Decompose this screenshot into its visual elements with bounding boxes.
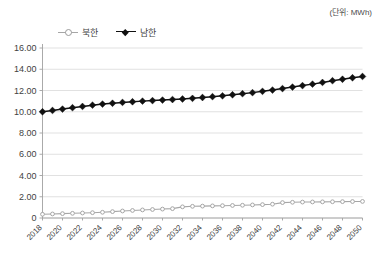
x-tick-label: 2046 [305, 223, 324, 242]
data-point [151, 208, 155, 212]
chart-container: (단위: MWh) 북한 남한 02.004.006.008.0010.0012… [0, 0, 378, 261]
x-tick-label: 2042 [265, 223, 284, 242]
data-point [121, 209, 125, 213]
data-point [131, 209, 135, 213]
data-point [129, 98, 136, 105]
data-point [329, 77, 336, 84]
x-tick-label: 2020 [45, 223, 64, 242]
y-axis-ticks: 02.004.006.008.0010.0012.0014.0016.00 [14, 43, 43, 223]
data-point [189, 95, 196, 102]
data-point [109, 100, 116, 107]
gridlines [43, 48, 363, 218]
data-point [359, 73, 366, 80]
data-point [261, 203, 265, 207]
plot-area: 02.004.006.008.0010.0012.0014.0016.00 20… [0, 0, 378, 261]
data-point [141, 208, 145, 212]
data-point [341, 200, 345, 204]
data-point [279, 85, 286, 92]
y-tick-label: 0 [31, 213, 36, 223]
data-point [201, 204, 205, 208]
data-point [231, 204, 235, 208]
data-point [339, 76, 346, 83]
data-point [291, 200, 295, 204]
data-point [229, 91, 236, 98]
data-point [319, 79, 326, 86]
data-point [239, 90, 246, 97]
y-tick-label: 8.00 [19, 128, 37, 138]
data-point [281, 201, 285, 205]
axis-lines [43, 44, 363, 218]
y-tick-label: 12.00 [14, 86, 37, 96]
data-point [251, 203, 255, 207]
data-point [219, 92, 226, 99]
data-point [49, 107, 56, 114]
x-tick-label: 2032 [165, 223, 184, 242]
data-point [79, 103, 86, 110]
data-point [199, 94, 206, 101]
y-tick-label: 4.00 [19, 171, 37, 181]
data-point [181, 205, 185, 209]
data-point [91, 211, 95, 215]
data-point [349, 74, 356, 81]
x-tick-label: 2018 [25, 223, 44, 242]
data-point [351, 200, 355, 204]
data-point [311, 200, 315, 204]
x-tick-label: 2038 [225, 223, 244, 242]
data-point [179, 96, 186, 103]
data-point [61, 212, 65, 216]
data-point [221, 204, 225, 208]
x-tick-label: 2050 [345, 223, 364, 242]
data-point [211, 204, 215, 208]
data-point [139, 98, 146, 105]
data-point [51, 212, 55, 216]
data-series [39, 73, 366, 216]
x-tick-label: 2028 [125, 223, 144, 242]
y-tick-label: 2.00 [19, 192, 37, 202]
data-point [299, 82, 306, 89]
x-tick-label: 2040 [245, 223, 264, 242]
x-tick-label: 2048 [325, 223, 344, 242]
x-tick-label: 2044 [285, 223, 304, 242]
data-point [161, 207, 165, 211]
data-point [191, 204, 195, 208]
data-point [39, 108, 46, 115]
data-point [89, 102, 96, 109]
data-point [209, 93, 216, 100]
x-tick-label: 2034 [185, 223, 204, 242]
data-point [159, 97, 166, 104]
data-point [169, 96, 176, 103]
x-tick-label: 2024 [85, 223, 104, 242]
data-point [71, 211, 75, 215]
data-point [101, 210, 105, 214]
x-tick-label: 2030 [145, 223, 164, 242]
data-point [361, 200, 365, 204]
data-point [269, 87, 276, 94]
data-point [321, 200, 325, 204]
x-tick-label: 2022 [65, 223, 84, 242]
data-point [99, 101, 106, 108]
data-point [271, 202, 275, 206]
data-point [171, 207, 175, 211]
y-tick-label: 10.00 [14, 107, 37, 117]
data-point [81, 211, 85, 215]
data-point [111, 210, 115, 214]
data-point [69, 104, 76, 111]
data-point [309, 81, 316, 88]
chart-svg: 02.004.006.008.0010.0012.0014.0016.00 20… [0, 0, 378, 261]
x-tick-label: 2036 [205, 223, 224, 242]
data-point [289, 84, 296, 91]
data-point [149, 97, 156, 104]
y-tick-label: 14.00 [14, 64, 37, 74]
data-point [241, 203, 245, 207]
data-point [119, 99, 126, 106]
x-axis-ticks: 2018202020222024202620282030203220342036… [25, 218, 364, 242]
x-tick-label: 2026 [105, 223, 124, 242]
y-tick-label: 16.00 [14, 43, 37, 53]
data-point [259, 88, 266, 95]
data-point [41, 212, 45, 216]
data-point [331, 200, 335, 204]
y-tick-label: 6.00 [19, 149, 37, 159]
data-point [301, 200, 305, 204]
